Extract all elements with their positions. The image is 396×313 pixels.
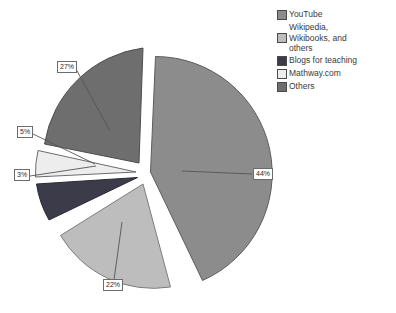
legend-item-mathway[interactable]: Mathway.com bbox=[277, 68, 393, 80]
legend-swatch-icon-youtube bbox=[277, 10, 287, 20]
legend-swatch-icon-blogs bbox=[277, 56, 287, 66]
data-label-wikipedia: 22% bbox=[103, 279, 123, 291]
pie-chart: 44% 27% 5% 3% 22% YouTube Wikipedia, Wik… bbox=[0, 0, 396, 313]
legend-label-blogs: Blogs for teaching bbox=[289, 55, 357, 66]
legend-swatch-icon-wikipedia bbox=[277, 33, 287, 43]
legend-label-others: Others bbox=[289, 81, 315, 92]
legend-item-others[interactable]: Others bbox=[277, 81, 393, 93]
legend-swatch-icon-mathway bbox=[277, 69, 287, 79]
data-label-blogs: 3% bbox=[14, 169, 30, 181]
legend-label-youtube: YouTube bbox=[289, 9, 322, 20]
legend-item-blogs[interactable]: Blogs for teaching bbox=[277, 55, 393, 67]
legend-item-wikipedia[interactable]: Wikipedia, Wikibooks, and others bbox=[277, 22, 393, 54]
legend-item-youtube[interactable]: YouTube bbox=[277, 9, 393, 21]
data-label-others: 27% bbox=[57, 61, 77, 73]
chart-legend: YouTube Wikipedia, Wikibooks, and others… bbox=[277, 9, 393, 94]
legend-label-wikipedia: Wikipedia, Wikibooks, and others bbox=[289, 22, 347, 54]
data-label-youtube: 44% bbox=[253, 168, 273, 180]
legend-swatch-icon-others bbox=[277, 82, 287, 92]
data-label-mathway: 5% bbox=[17, 126, 33, 138]
legend-label-mathway: Mathway.com bbox=[289, 68, 341, 79]
